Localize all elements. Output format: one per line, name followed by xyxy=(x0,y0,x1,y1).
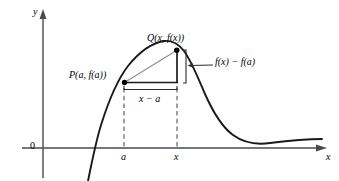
run-annotation-label: x − a xyxy=(139,94,160,104)
run-bracket xyxy=(124,86,177,90)
x-tick-label-a: a xyxy=(121,152,126,162)
origin-label: 0 xyxy=(30,141,35,151)
y-axis-label: y xyxy=(33,7,37,17)
secant-line-pq xyxy=(125,51,177,83)
point-p-marker xyxy=(122,80,127,85)
figure-canvas xyxy=(0,0,339,181)
y-axis-arrow xyxy=(40,9,47,19)
point-p-label: P(a, f(a)) xyxy=(69,70,106,80)
point-q-label: Q(x, f(x)) xyxy=(147,33,184,43)
point-q-marker xyxy=(174,48,179,53)
rise-annotation-label: f(x) − f(a) xyxy=(215,57,255,67)
secant-line-figure: y x 0 a x P(a, f(a)) Q(x, f(x)) f(x) − f… xyxy=(0,0,339,181)
x-tick-label-x: x xyxy=(174,152,178,162)
x-axis-label: x xyxy=(326,152,330,162)
